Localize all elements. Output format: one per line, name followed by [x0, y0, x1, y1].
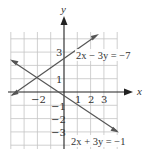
- x-axis-arrow-icon: [124, 89, 133, 96]
- svg-text:−1: −1: [51, 101, 66, 112]
- equation-label-line-1: 2x − 3y = −7: [76, 50, 131, 61]
- svg-text:1: 1: [56, 74, 62, 85]
- y-axis-label: y: [60, 3, 66, 15]
- x-axis-label: x: [136, 85, 142, 97]
- arrow-icon: [11, 89, 19, 96]
- svg-text:3: 3: [101, 94, 107, 105]
- svg-text:3: 3: [56, 47, 62, 58]
- equation-label-line-2: 2x + 3y = −1: [71, 136, 126, 147]
- svg-text:−2: −2: [31, 94, 46, 105]
- y-axis-arrow-icon: [61, 16, 68, 25]
- svg-text:1: 1: [75, 94, 81, 105]
- graph-canvas: x y −2 1 2 3 3 1 −1 −2 −3 2x − 3y = −7 2…: [0, 0, 147, 149]
- svg-text:2: 2: [88, 94, 94, 105]
- svg-text:−2: −2: [51, 114, 66, 125]
- svg-text:−3: −3: [51, 127, 66, 138]
